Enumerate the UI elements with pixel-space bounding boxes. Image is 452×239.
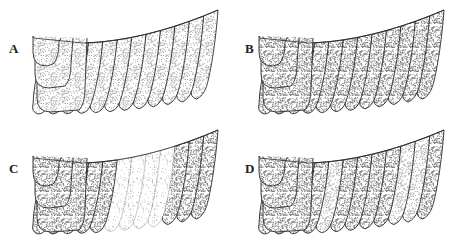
panel-label-a: A [9,42,18,55]
panel-d [259,130,444,234]
scale-pattern-figure: A B C D [0,0,452,239]
panel-a [33,10,218,114]
figure-canvas [0,0,452,239]
panel-b [259,10,444,114]
panel-label-d: D [245,162,254,175]
panel-label-b: B [245,42,254,55]
panel-label-c: C [9,162,18,175]
panel-c [33,130,218,234]
